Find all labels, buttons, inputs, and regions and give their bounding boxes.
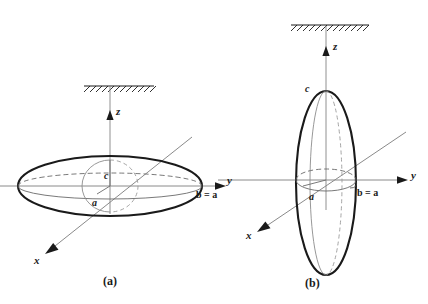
panel-a-y-axis-label: y [227,175,232,186]
figure-background [0,0,428,304]
ellipsoid-orientation-figure [0,0,428,304]
panel-b-x-axis-label: x [246,230,252,241]
panel-b-caption: (b) [305,277,320,289]
panel-a-semi-axis-c-label: c [104,171,108,181]
panel-a-z-axis-label: z [116,106,120,117]
panel-a-semi-axis-a-label: a [92,198,97,208]
panel-a-b-equals-a-label: b = a [196,190,217,200]
panel-a-caption: (a) [103,275,117,287]
panel-b-z-axis-label: z [333,41,337,52]
panel-b-b-equals-a-label: b = a [357,188,378,198]
panel-b-y-axis-label: y [411,170,416,181]
panel-a-x-axis-label: x [34,255,40,266]
panel-b-semi-axis-c-label: c [305,84,309,94]
panel-b-semi-axis-a-label: a [309,192,314,202]
